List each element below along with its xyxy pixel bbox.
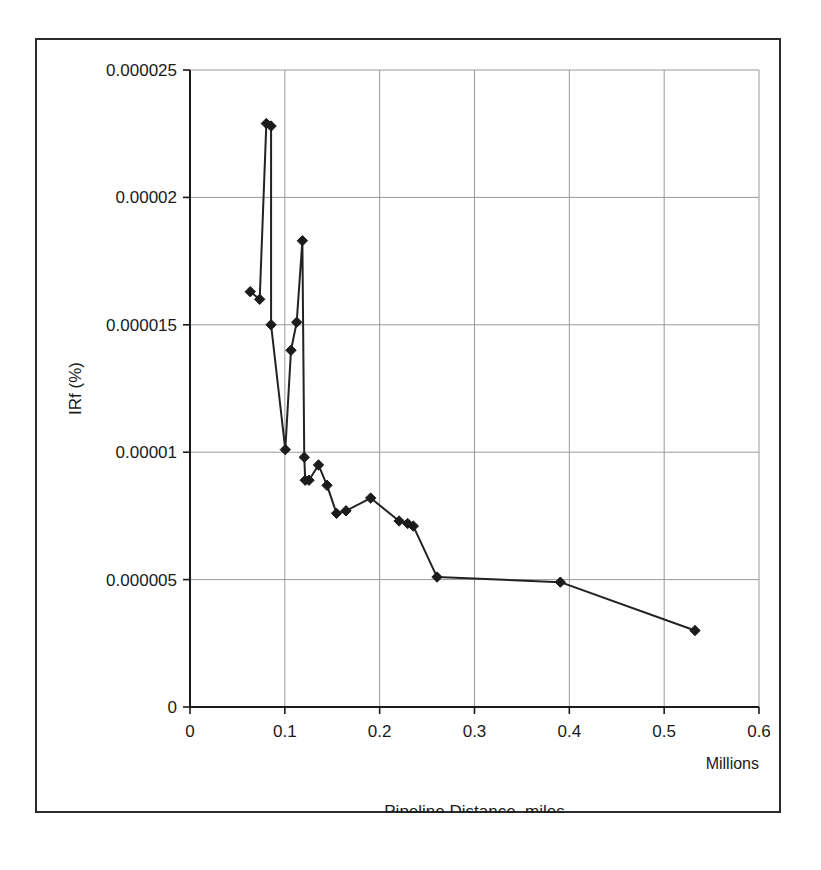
- data-point-marker: [432, 572, 442, 582]
- x-tick-label-6: 0.6: [747, 722, 771, 741]
- chart-plot: 00.0000050.000010.0000150.000020.0000250…: [37, 40, 781, 813]
- x-axis-unit-label: Millions: [706, 755, 759, 772]
- data-point-marker: [313, 460, 323, 470]
- data-point-marker: [341, 506, 351, 516]
- data-point-marker: [331, 508, 341, 518]
- y-tick-label-1: 0.000005: [106, 571, 177, 590]
- y-tick-label-3: 0.000015: [106, 316, 177, 335]
- x-tick-label-1: 0.1: [273, 722, 297, 741]
- data-point-marker: [286, 345, 296, 355]
- y-tick-label-2: 0.00001: [116, 443, 177, 462]
- data-point-marker: [690, 625, 700, 635]
- data-point-marker: [299, 452, 309, 462]
- x-tick-label-5: 0.5: [652, 722, 676, 741]
- y-tick-label-4: 0.00002: [116, 188, 177, 207]
- figure-frame: 00.0000050.000010.0000150.000020.0000250…: [35, 38, 781, 813]
- data-point-marker: [322, 480, 332, 490]
- series-line-IRf: [250, 124, 695, 631]
- x-tick-label-4: 0.4: [558, 722, 582, 741]
- x-tick-label-0: 0: [185, 722, 194, 741]
- data-point-marker: [555, 577, 565, 587]
- data-point-marker: [291, 317, 301, 327]
- data-point-marker: [266, 320, 276, 330]
- x-axis-title: Pipeline Distance, miles: [384, 802, 564, 813]
- y-axis-title: IRf (%): [66, 362, 85, 415]
- x-tick-label-3: 0.3: [463, 722, 487, 741]
- x-tick-label-2: 0.2: [368, 722, 392, 741]
- data-point-marker: [297, 236, 307, 246]
- y-tick-label-0: 0: [168, 698, 177, 717]
- data-point-marker: [280, 444, 290, 454]
- y-tick-label-5: 0.000025: [106, 61, 177, 80]
